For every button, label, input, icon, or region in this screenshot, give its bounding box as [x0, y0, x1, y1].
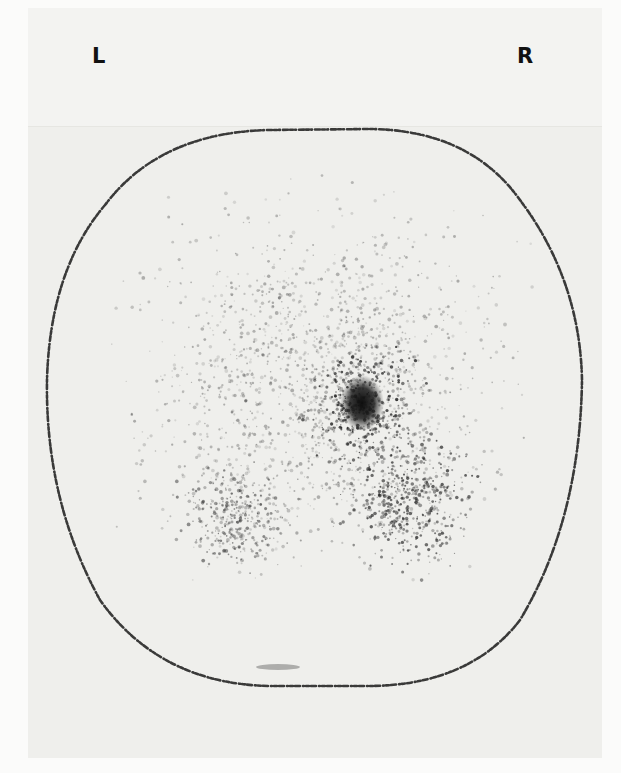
hotspot-uptake [340, 375, 384, 431]
speckle-field [111, 174, 534, 582]
scan-image [0, 0, 621, 773]
artifact-mark [256, 664, 300, 670]
